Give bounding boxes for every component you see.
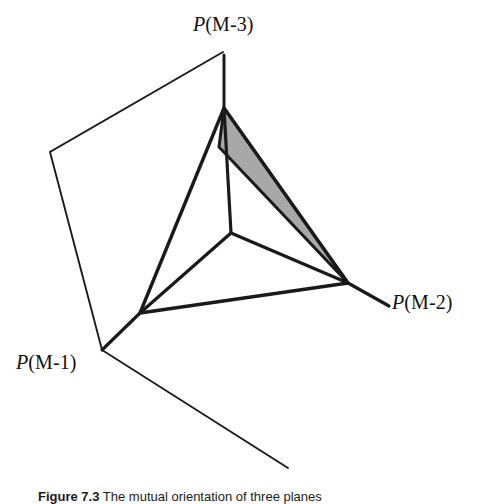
outline-triangle [140, 108, 348, 313]
stem-m1 [102, 313, 140, 350]
figure-caption-label: Figure 7.3 [38, 489, 99, 504]
vertex-label-m1-arg: (M-1) [28, 351, 76, 373]
vertex-label-m1-symbol: P [16, 351, 28, 373]
vertex-label-m1: P(M-1) [16, 352, 77, 372]
vertex-label-m2: P(M-2) [392, 292, 453, 312]
outer-plane-polyline [50, 52, 288, 468]
vertex-label-m2-arg: (M-2) [404, 291, 452, 313]
figure-caption: Figure 7.3 The mutual orientation of thr… [38, 489, 478, 504]
stem-m2 [348, 283, 389, 306]
vertex-label-m3-arg: (M-3) [205, 13, 253, 35]
vertex-label-m3-symbol: P [193, 13, 205, 35]
vertex-label-m2-symbol: P [392, 291, 404, 313]
figure-caption-text: The mutual orientation of three planes [103, 489, 322, 504]
vertex-label-m3: P(M-3) [193, 14, 254, 34]
